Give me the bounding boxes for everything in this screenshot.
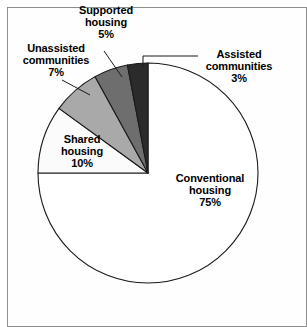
pie-label-conventional-housing: Conventional housing 75% [158, 172, 262, 209]
pie-label-supported-housing-line1: Supported [58, 4, 154, 16]
pie-label-shared-housing-line2: housing [42, 145, 122, 157]
pie-label-assisted-communities: Assisted communities 3% [190, 48, 288, 85]
pie-label-conventional-housing-value: 75% [158, 196, 262, 208]
pie-label-conventional-housing-line1: Conventional [158, 172, 262, 184]
pie-label-unassisted-communities-line1: Unassisted [4, 42, 108, 54]
pie-label-supported-housing: Supported housing 5% [58, 4, 154, 41]
pie-label-conventional-housing-line2: housing [158, 184, 262, 196]
pie-label-shared-housing-value: 10% [42, 157, 122, 169]
pie-label-unassisted-communities-value: 7% [4, 66, 108, 78]
pie-label-assisted-communities-line1: Assisted [190, 48, 288, 60]
pie-label-supported-housing-line2: housing [58, 16, 154, 28]
pie-label-unassisted-communities-line2: communities [4, 54, 108, 66]
pie-label-shared-housing-line1: Shared [42, 133, 122, 145]
pie-label-unassisted-communities: Unassisted communities 7% [4, 42, 108, 79]
pie-label-assisted-communities-line2: communities [190, 60, 288, 72]
pie-label-assisted-communities-value: 3% [190, 72, 288, 84]
pie-label-shared-housing: Shared housing 10% [42, 133, 122, 170]
pie-label-supported-housing-value: 5% [58, 28, 154, 40]
